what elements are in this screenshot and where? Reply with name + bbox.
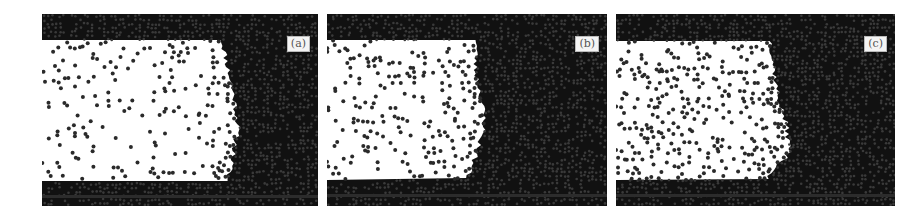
panel-a: (a)	[42, 14, 318, 206]
particle-field-a	[42, 14, 318, 206]
panel-label-b: (b)	[575, 36, 599, 52]
panel-label-c: (c)	[864, 36, 887, 52]
panel-b: (b)	[327, 14, 607, 206]
particle-field-b	[327, 14, 607, 206]
panel-label-a: (a)	[287, 36, 310, 52]
panel-c: (c)	[616, 14, 895, 206]
particle-field-c	[616, 14, 895, 206]
